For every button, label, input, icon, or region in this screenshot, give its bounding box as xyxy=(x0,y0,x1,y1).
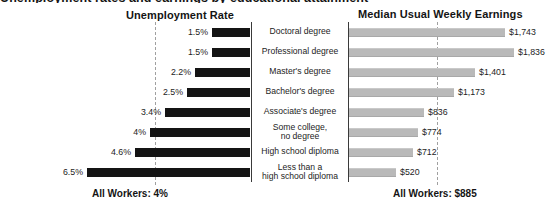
chart-row: 1.5%Doctoral degree$1,743 xyxy=(0,22,554,42)
chart-row: 2.5%Bachelor's degree$1,173 xyxy=(0,82,554,102)
chart-row: 3.4%Associate's degree$836 xyxy=(0,102,554,122)
unemployment-bar xyxy=(165,108,250,117)
category-label: High school diploma xyxy=(251,142,349,162)
category-label: Bachelor's degree xyxy=(251,82,349,102)
category-label: Master's degree xyxy=(251,62,349,82)
earnings-bar xyxy=(349,168,396,177)
earnings-bar xyxy=(349,128,418,137)
chart-row: 2.2%Master's degree$1,401 xyxy=(0,62,554,82)
chart-row: 4%Some college, no degree$774 xyxy=(0,122,554,142)
column-header-unemployment: Unemployment Rate xyxy=(126,9,234,21)
category-label: Doctoral degree xyxy=(251,22,349,42)
unemployment-bar xyxy=(150,128,250,137)
unemployment-bar xyxy=(135,148,250,157)
category-label: Some college, no degree xyxy=(251,122,349,142)
chart-rows: 1.5%Doctoral degree$1,7431.5%Professiona… xyxy=(0,22,554,182)
earnings-value-label: $712 xyxy=(417,147,437,158)
earnings-bar xyxy=(349,28,505,37)
unemployment-value-label: 1.5% xyxy=(188,47,208,58)
earnings-bar xyxy=(349,88,454,97)
chart-row: 6.5%Less than a high school diploma$520 xyxy=(0,162,554,182)
earnings-bar xyxy=(349,108,424,117)
unemployment-bar xyxy=(212,48,250,57)
chart-row: 1.5%Professional degree$1,836 xyxy=(0,42,554,62)
unemployment-bar xyxy=(212,28,250,37)
earnings-bar xyxy=(349,68,475,77)
unemployment-bar xyxy=(187,88,250,97)
unemployment-value-label: 3.4% xyxy=(141,107,161,118)
education-attainment-chart: Unemployment rates and earnings by educa… xyxy=(0,0,554,206)
unemployment-value-label: 4.6% xyxy=(111,147,131,158)
footer-all-workers-earnings: All Workers: $885 xyxy=(393,188,477,199)
earnings-value-label: $1,836 xyxy=(518,47,545,58)
chart-title-clipped: Unemployment rates and earnings by educa… xyxy=(0,0,554,3)
earnings-value-label: $520 xyxy=(400,167,420,178)
earnings-value-label: $774 xyxy=(422,127,442,138)
earnings-value-label: $1,401 xyxy=(479,67,506,78)
earnings-value-label: $1,173 xyxy=(458,87,485,98)
category-label: Less than a high school diploma xyxy=(251,162,349,182)
footer-all-workers-unemployment: All Workers: 4% xyxy=(92,188,168,199)
earnings-value-label: $1,743 xyxy=(509,27,536,38)
unemployment-value-label: 6.5% xyxy=(63,167,83,178)
unemployment-bar xyxy=(87,168,250,177)
category-label: Professional degree xyxy=(251,42,349,62)
unemployment-value-label: 4% xyxy=(133,127,146,138)
category-label: Associate's degree xyxy=(251,102,349,122)
earnings-bar xyxy=(349,48,514,57)
chart-row: 4.6%High school diploma$712 xyxy=(0,142,554,162)
column-header-earnings: Median Usual Weekly Earnings xyxy=(358,8,523,20)
unemployment-value-label: 1.5% xyxy=(188,27,208,38)
earnings-bar xyxy=(349,148,413,157)
unemployment-value-label: 2.2% xyxy=(171,67,191,78)
unemployment-bar xyxy=(195,68,250,77)
earnings-value-label: $836 xyxy=(428,107,448,118)
unemployment-value-label: 2.5% xyxy=(163,87,183,98)
